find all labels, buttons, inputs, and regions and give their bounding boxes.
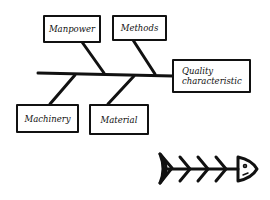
- cause-label-methods: Methods: [121, 23, 159, 33]
- effect-label-line1: Quality: [182, 66, 213, 76]
- cause-box-manpower: Manpower: [43, 15, 101, 43]
- cause-label-manpower: Manpower: [49, 24, 95, 34]
- cause-label-machinery: Machinery: [24, 114, 70, 124]
- bone-manpower: [82, 42, 104, 73]
- effect-label-line2: characteristic: [182, 76, 242, 86]
- cause-label-material: Material: [101, 115, 138, 125]
- cause-box-material: Material: [89, 104, 149, 135]
- cause-box-machinery: Machinery: [16, 104, 79, 133]
- fishbone-diagram: Manpower Methods Quality characteristic …: [0, 0, 270, 200]
- cause-box-methods: Methods: [112, 15, 167, 41]
- bone-machinery: [50, 75, 75, 104]
- fish-skeleton-icon: [160, 154, 257, 183]
- effect-box: Quality characteristic: [172, 59, 251, 93]
- bone-methods: [133, 40, 155, 74]
- bone-material: [108, 76, 134, 104]
- spine-line: [38, 73, 173, 76]
